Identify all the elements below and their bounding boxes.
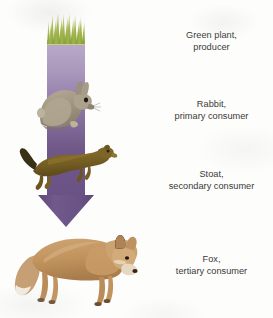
label-fox-line2: tertiary consumer (150, 266, 273, 278)
label-fox-line1: Fox, (150, 254, 273, 266)
label-rabbit-line2: primary consumer (150, 111, 273, 123)
label-rabbit: Rabbit, primary consumer (150, 99, 273, 122)
label-fox: Fox, tertiary consumer (150, 254, 273, 277)
food-chain-figure: Green plant, producer Rabbit, primary co… (0, 0, 273, 318)
label-stoat-line1: Stoat, (150, 169, 273, 181)
fox-icon (15, 235, 138, 306)
arrow-head (38, 195, 94, 227)
grass-icon (47, 12, 85, 45)
label-stoat: Stoat, secondary consumer (150, 169, 273, 192)
label-stoat-line2: secondary consumer (150, 181, 273, 193)
energy-flow-column (0, 0, 150, 318)
label-column: Green plant, producer Rabbit, primary co… (150, 0, 273, 318)
label-green-plant: Green plant, producer (150, 30, 273, 53)
food-chain-artwork (0, 0, 150, 318)
label-rabbit-line1: Rabbit, (150, 99, 273, 111)
label-green-plant-line2: producer (150, 42, 273, 54)
label-green-plant-line1: Green plant, (150, 30, 273, 42)
